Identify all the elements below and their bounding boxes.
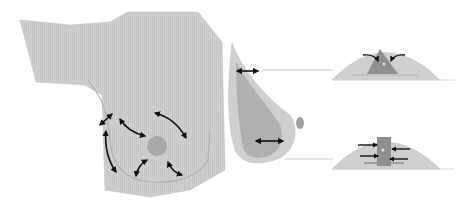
torso-shape [20, 12, 225, 197]
nipple [296, 117, 304, 129]
diagram-canvas [0, 0, 468, 209]
lateral-view [229, 43, 333, 163]
central-pillar [377, 137, 391, 166]
center-star [382, 149, 385, 152]
cross-section-top [332, 49, 455, 80]
areola [147, 136, 167, 156]
center-star [383, 63, 386, 66]
breast-surgery-diagram [0, 0, 468, 209]
frontal-view [20, 12, 225, 197]
cross-section-bottom [332, 137, 455, 169]
